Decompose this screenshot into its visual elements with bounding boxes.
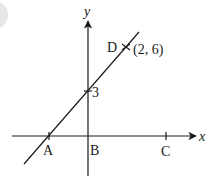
y-intercept-label: 3 xyxy=(92,85,99,100)
point-B-label: B xyxy=(90,143,99,158)
y-axis-label: y xyxy=(82,4,91,19)
point-D-coords: (2, 6) xyxy=(133,42,164,58)
point-D-label: D xyxy=(107,40,117,55)
x-axis-label: x xyxy=(198,129,206,144)
point-A-label: A xyxy=(43,143,54,158)
line-AD xyxy=(24,32,139,164)
coordinate-diagram: y x D (2, 6) 3 A B C xyxy=(0,0,219,186)
diagram-canvas: y x D (2, 6) 3 A B C xyxy=(0,0,219,186)
point-C-label: C xyxy=(161,144,170,159)
